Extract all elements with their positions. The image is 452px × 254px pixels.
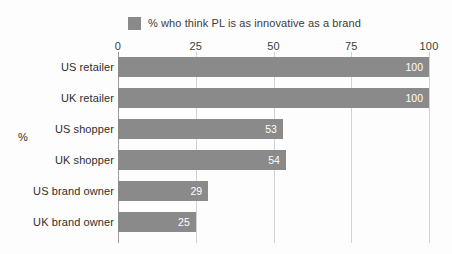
bar-value-label: 29 [191, 186, 209, 197]
category-label: US brand owner [2, 181, 114, 201]
bar-value-label: 25 [178, 217, 196, 228]
x-axis-tick-label: 0 [115, 40, 121, 52]
bar: 100 [118, 57, 429, 77]
bar-row: 54 [118, 150, 429, 170]
bar-value-label: 53 [265, 124, 283, 135]
chart-legend: % who think PL is as innovative as a bra… [128, 14, 361, 32]
bar-row: 53 [118, 119, 429, 139]
bar: 25 [118, 212, 196, 232]
legend-swatch-icon [128, 17, 141, 30]
bar-value-label: 100 [405, 62, 429, 73]
category-label: UK retailer [2, 88, 114, 108]
category-label: UK shopper [2, 150, 114, 170]
category-label: US shopper [2, 119, 114, 139]
x-axis-tick-label: 50 [267, 40, 280, 52]
bar-value-label: 54 [268, 155, 286, 166]
bar: 100 [118, 88, 429, 108]
bar-row: 100 [118, 57, 429, 77]
bar-row: 29 [118, 181, 429, 201]
x-axis-tick-label: 75 [345, 40, 358, 52]
bar-row: 25 [118, 212, 429, 232]
bar: 29 [118, 181, 208, 201]
gridline [429, 52, 430, 243]
y-axis-category-labels: US retailerUK retailerUS shopperUK shopp… [0, 52, 114, 243]
bar-chart: % who think PL is as innovative as a bra… [0, 0, 452, 254]
category-label: UK brand owner [2, 212, 114, 232]
plot-area: 10010053542925 [118, 52, 429, 243]
x-axis-tick-label: 25 [189, 40, 202, 52]
bar: 54 [118, 150, 286, 170]
bar-value-label: 100 [405, 93, 429, 104]
bar: 53 [118, 119, 283, 139]
category-label: US retailer [2, 57, 114, 77]
x-axis-tick-label: 100 [420, 40, 439, 52]
bar-row: 100 [118, 88, 429, 108]
legend-label: % who think PL is as innovative as a bra… [148, 17, 361, 29]
